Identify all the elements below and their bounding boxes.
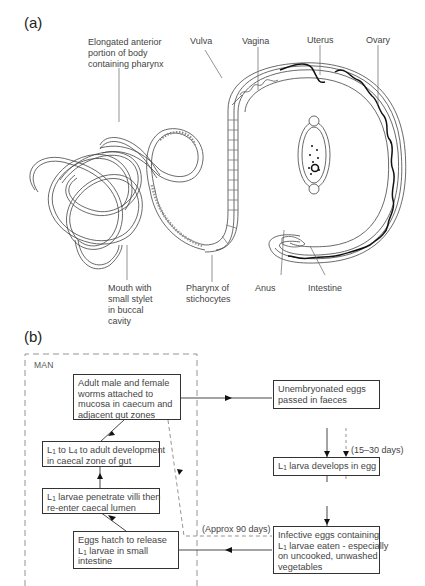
annotation-15-30-days: (15–30 days)	[351, 445, 404, 456]
box-eggs-hatch: Eggs hatch to release L1 larvae in small…	[73, 531, 179, 569]
box-l1-l4-development: L1 to L4 to adult development in caecal …	[42, 441, 160, 467]
box-larvae-penetrate-villi: L1 larvae penetrate villi then re-enter …	[42, 488, 160, 514]
box-infective-eggs: Infective eggs containing L1 larvae eate…	[273, 526, 380, 574]
box-unembryonated-eggs: Unembryonated eggs passed in faeces	[273, 380, 380, 409]
box-l1-develops-in-egg: L1 larva develops in egg	[273, 457, 380, 476]
box-adult-worms: Adult male and female worms attached to …	[73, 374, 181, 420]
annotation-approx-90-days: (Approx 90 days)	[202, 524, 271, 535]
host-region-man-label: MAN	[34, 360, 54, 370]
